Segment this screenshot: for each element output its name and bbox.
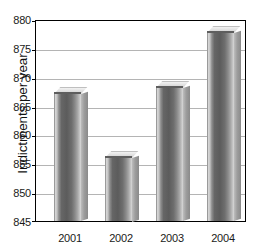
tick-mark-880 (32, 21, 36, 22)
tick-mark-845 (32, 221, 36, 222)
plot-area (35, 20, 246, 222)
x-tick-label-2004: 2004 (211, 232, 235, 244)
x-tick-label-2002: 2002 (109, 232, 133, 244)
bar-chart: Indictments per year 880 875 870 865 860… (0, 0, 257, 250)
y-tick-label-875: 875 (1, 43, 31, 55)
tick-mark-855 (32, 165, 36, 166)
bar-2002-top-edge (105, 156, 132, 158)
bar-2002[interactable] (105, 158, 132, 222)
bar-2002-side (132, 155, 139, 221)
bar-2004-top-edge (207, 31, 234, 33)
bar-2001-side (81, 92, 88, 221)
tick-mark-850 (32, 194, 36, 195)
x-tick-label-2001: 2001 (58, 232, 82, 244)
bar-2004-side (234, 31, 241, 221)
bar-2004[interactable] (207, 33, 234, 221)
tick-mark-860 (32, 136, 36, 137)
tick-mark-875 (32, 50, 36, 51)
bar-2003-front (156, 88, 184, 221)
bar-2001[interactable] (54, 94, 81, 221)
y-tick-label-855: 855 (1, 158, 31, 170)
bar-2002-front (105, 158, 133, 222)
bar-2003[interactable] (156, 88, 183, 221)
y-axis-tick-labels: 880 875 870 865 860 855 850 845 (0, 0, 31, 250)
y-tick-label-860: 860 (1, 129, 31, 141)
y-tick-label-845: 845 (1, 216, 31, 228)
y-tick-label-850: 850 (1, 187, 31, 199)
y-tick-label-865: 865 (1, 101, 31, 113)
bar-2003-side (183, 86, 190, 221)
tick-mark-865 (32, 108, 36, 109)
bar-2001-top-edge (54, 92, 81, 94)
bar-2004-front (207, 33, 235, 221)
bar-2001-front (54, 94, 82, 221)
y-tick-label-870: 870 (1, 72, 31, 84)
x-tick-label-2003: 2003 (160, 232, 184, 244)
bar-2003-top-edge (156, 86, 183, 88)
y-tick-label-880: 880 (1, 14, 31, 26)
tick-mark-870 (32, 79, 36, 80)
